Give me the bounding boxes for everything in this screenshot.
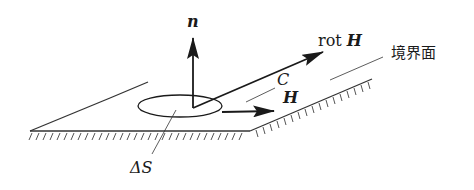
area-label: ΔS [130, 160, 153, 176]
h-vector-arrow [222, 111, 274, 112]
plane-back-edge-segment [110, 82, 148, 98]
rot-vector-symbol: H [347, 31, 362, 50]
diagram-svg [0, 0, 474, 190]
contour-label: C [277, 72, 289, 88]
rot-h-label: rot H [318, 33, 362, 49]
plane-right-edge [250, 79, 372, 131]
h-vector-label: H [283, 90, 298, 106]
diagram-canvas: n rot H C H ΔS 境界面 [0, 0, 474, 190]
plane-left-edge [30, 98, 110, 131]
contour-ellipse [138, 95, 222, 117]
rot-operator: rot [318, 31, 342, 50]
contour-leader-line [246, 88, 275, 102]
hatching-front [29, 133, 242, 140]
rot-h-vector-arrow [193, 52, 323, 108]
normal-label: n [187, 14, 199, 30]
hatching-right [256, 82, 370, 137]
boundary-surface-label: 境界面 [391, 46, 436, 61]
boundary-leader-line [330, 57, 383, 80]
